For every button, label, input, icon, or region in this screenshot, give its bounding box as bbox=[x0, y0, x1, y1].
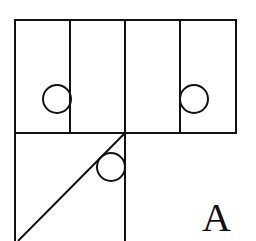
circle-bottom bbox=[97, 153, 125, 181]
circle-left bbox=[43, 85, 71, 113]
figure-label: A bbox=[202, 198, 231, 238]
circle-right bbox=[180, 85, 208, 113]
diagonal-line bbox=[18, 133, 125, 241]
